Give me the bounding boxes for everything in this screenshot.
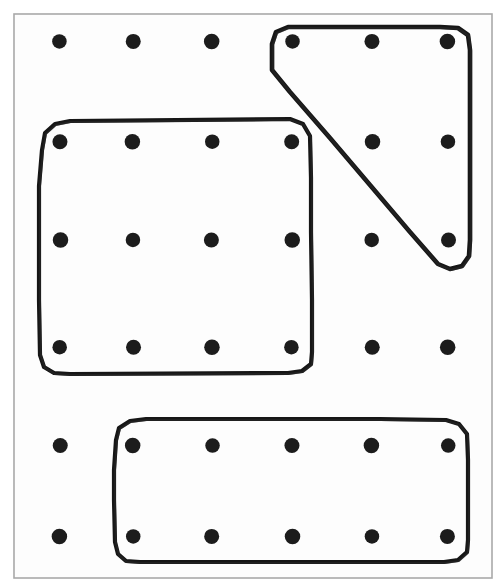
grid-dot [365,340,380,355]
grid-dot [284,438,299,453]
grid-dot [52,529,68,545]
grid-dot [365,529,380,544]
grid-dot [364,34,379,49]
grid-dot [441,232,456,247]
grid-dot [285,529,301,545]
grid-dot [52,134,67,149]
grid-dot [440,339,456,355]
grid-dot [125,438,141,454]
outer-border-frame [14,14,492,578]
grid-dot [53,232,69,248]
grid-dot [204,232,219,247]
grid-dot [441,134,456,149]
grid-dot [284,232,300,248]
grid-dot [440,529,455,544]
figure-canvas [0,0,500,588]
grid-dot [364,233,379,248]
grid-dot [441,438,456,453]
grid-dot [53,438,68,453]
grid-dot [52,340,67,355]
grid-dot [204,529,219,544]
grid-dot [440,34,456,50]
grid-dot [205,134,220,149]
grid-dot [52,34,67,49]
grid-dot [284,340,299,355]
grid-dot [126,340,141,355]
grid-dot [126,34,141,49]
grid-dot [365,134,381,150]
grid-dot [126,233,141,248]
grid-dot [204,339,220,355]
grid-dot [284,134,299,149]
figure-root: Dot grid with three hand-drawn enclosing… [0,0,500,588]
grid-dot [125,134,141,150]
grid-dot [364,438,380,454]
grid-dot [126,529,141,544]
grid-dot [285,34,300,49]
grid-dot [205,438,220,453]
grid-dot [204,34,220,50]
